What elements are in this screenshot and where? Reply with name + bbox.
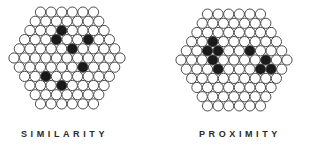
dark-circle	[213, 46, 223, 56]
light-circle	[240, 92, 250, 102]
light-circle	[255, 82, 265, 92]
light-circle	[240, 73, 250, 83]
light-circle	[271, 73, 281, 83]
light-circle	[245, 101, 255, 111]
light-circle	[250, 55, 260, 65]
light-circle	[197, 92, 207, 102]
light-circle	[266, 46, 276, 56]
light-circle	[202, 64, 212, 74]
light-circle	[234, 64, 244, 74]
light-circle	[224, 82, 234, 92]
light-circle	[229, 73, 239, 83]
light-circle	[250, 18, 260, 28]
light-circle	[245, 9, 255, 19]
light-circle	[229, 37, 239, 47]
light-circle	[245, 27, 255, 37]
light-circle	[192, 64, 202, 74]
light-circle	[218, 55, 228, 65]
light-circle	[250, 92, 260, 102]
light-circle	[234, 82, 244, 92]
light-circle	[192, 27, 202, 37]
light-circle	[202, 82, 212, 92]
light-circle	[202, 9, 212, 19]
light-circle	[208, 92, 218, 102]
light-circle	[187, 55, 197, 65]
dark-circle	[213, 64, 223, 74]
light-circle	[277, 64, 287, 74]
light-circle	[245, 64, 255, 74]
light-circle	[282, 55, 292, 65]
light-circle	[208, 18, 218, 28]
light-circle	[192, 82, 202, 92]
light-circle	[229, 92, 239, 102]
light-circle	[266, 82, 276, 92]
light-circle	[213, 27, 223, 37]
light-circle	[197, 37, 207, 47]
light-circle	[271, 55, 281, 65]
dark-circle	[266, 64, 276, 74]
light-circle	[245, 82, 255, 92]
light-circle	[234, 27, 244, 37]
light-circle	[224, 27, 234, 37]
light-circle	[181, 46, 191, 56]
light-circle	[187, 37, 197, 47]
light-circle	[234, 9, 244, 19]
light-circle	[218, 18, 228, 28]
light-circle	[208, 73, 218, 83]
light-circle	[213, 9, 223, 19]
light-circle	[240, 37, 250, 47]
light-circle	[255, 9, 265, 19]
light-circle	[197, 55, 207, 65]
dark-circle	[208, 55, 218, 65]
light-circle	[213, 101, 223, 111]
light-circle	[261, 18, 271, 28]
light-circle	[255, 27, 265, 37]
light-circle	[229, 55, 239, 65]
light-circle	[240, 55, 250, 65]
dark-circle	[208, 37, 218, 47]
light-circle	[261, 92, 271, 102]
light-circle	[271, 37, 281, 47]
dark-circle	[255, 64, 265, 74]
light-circle	[234, 101, 244, 111]
light-circle	[250, 73, 260, 83]
light-circle	[213, 82, 223, 92]
light-circle	[255, 101, 265, 111]
dark-circle	[261, 55, 271, 65]
light-circle	[187, 73, 197, 83]
light-circle	[261, 73, 271, 83]
similarity-label: SIMILARITY	[21, 129, 108, 139]
light-circle	[224, 46, 234, 56]
light-circle	[224, 9, 234, 19]
light-circle	[218, 73, 228, 83]
light-circle	[192, 46, 202, 56]
light-circle	[277, 46, 287, 56]
light-circle	[250, 37, 260, 47]
light-circle	[224, 64, 234, 74]
light-circle	[224, 101, 234, 111]
light-circle	[255, 46, 265, 56]
light-circle	[266, 27, 276, 37]
light-circle	[202, 101, 212, 111]
light-circle	[176, 55, 186, 65]
light-circle	[234, 46, 244, 56]
dark-circle	[202, 46, 212, 56]
light-circle	[197, 73, 207, 83]
light-circle	[202, 27, 212, 37]
light-circle	[218, 37, 228, 47]
light-circle	[218, 92, 228, 102]
dark-circle	[245, 46, 255, 56]
light-circle	[261, 37, 271, 47]
light-circle	[240, 18, 250, 28]
light-circle	[197, 18, 207, 28]
light-circle	[181, 64, 191, 74]
proximity-label: PROXIMITY	[199, 129, 281, 139]
light-circle	[229, 18, 239, 28]
